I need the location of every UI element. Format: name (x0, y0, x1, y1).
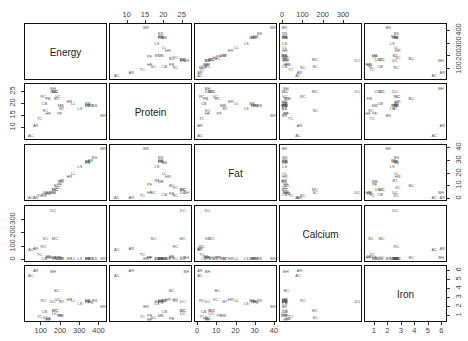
data-point-label: TC (37, 253, 42, 257)
data-point-label: PS (253, 257, 258, 261)
x-tick-label: 3 (395, 326, 407, 335)
y-tick (21, 115, 24, 116)
data-point-label: LL (162, 172, 166, 176)
data-point-label: LS (244, 257, 249, 261)
y-tick (447, 297, 450, 298)
data-point-label: RC (172, 299, 178, 303)
data-point-label: LS (78, 107, 83, 111)
scatter-panel-calcium-vs-fat: BBHRBRBSBCCBCCBHLLLSHSPRPSBTVCFBARACTCHF… (279, 144, 362, 201)
data-point-label: FB (169, 255, 174, 259)
y-tick (447, 147, 450, 148)
data-point-label: PS (253, 104, 258, 108)
data-point-label: UC (52, 257, 58, 261)
data-point-label: BR (143, 147, 149, 151)
y-tick (21, 219, 24, 220)
x-tick (40, 322, 41, 325)
data-point-label: MC (180, 237, 186, 241)
variable-label: Iron (365, 288, 446, 299)
x-tick (282, 20, 283, 23)
data-point-label: VC (173, 56, 179, 60)
data-point-label: PS (88, 257, 93, 261)
data-point-label: BH (438, 59, 444, 63)
data-point-label: TC (37, 315, 42, 319)
x-tick-label: 300 (337, 10, 349, 19)
data-point-label: BR (385, 26, 391, 30)
y-tick (21, 127, 24, 128)
x-tick-label: 10 (121, 10, 133, 19)
x-tick (255, 322, 256, 325)
data-point-label: BC (214, 289, 220, 293)
data-point-label: AC (197, 134, 203, 138)
y-tick (21, 259, 24, 260)
data-point-label: CB (201, 102, 207, 106)
data-point-label: VC (213, 95, 219, 99)
diagonal-panel-calcium: Calcium (279, 205, 362, 262)
data-point-label: SC (312, 109, 318, 113)
scatter-panel-energy-vs-iron: BBHRBRBSBCCBCCBHLLLSHSPRPSBTVCFBARACTCHF… (24, 265, 107, 322)
data-point-label: BH (205, 270, 211, 274)
data-point-label: BC (284, 289, 290, 293)
data-point-label: RC (199, 299, 205, 303)
x-tick (401, 322, 402, 325)
data-point-label: TC (288, 315, 293, 319)
y-tick-label: 400 (454, 21, 463, 37)
y-tick (447, 55, 450, 56)
data-point-label: PF (147, 183, 152, 187)
data-point-label: PS (253, 301, 258, 305)
data-point-label: PS (88, 159, 93, 163)
x-tick (60, 322, 61, 325)
data-point-label: RC (199, 245, 205, 249)
data-point-label: AC (114, 196, 120, 200)
data-point-label: BC (54, 289, 60, 293)
data-point-label: SC (43, 109, 49, 113)
data-point-label: LS (78, 257, 83, 261)
data-point-label: DC (180, 209, 186, 213)
data-point-label: BH (283, 270, 289, 274)
x-tick-label: 0 (276, 10, 288, 19)
data-point-label: HF (283, 63, 288, 67)
data-point-label: AR (440, 71, 446, 75)
data-point-label: DC (354, 191, 360, 195)
data-point-label: MC (312, 309, 318, 313)
scatter-panel-iron-vs-fat: BBHRBRBSBCCBCCBHLLLSHSPRPSBTVCFBARACTCHF… (364, 144, 447, 201)
data-point-label: DC (205, 300, 211, 304)
data-point-label: LL (234, 46, 238, 50)
x-tick (79, 322, 80, 325)
data-point-label: TC (288, 68, 293, 72)
data-point-label: BR (385, 147, 391, 151)
data-point-label: LS (244, 107, 249, 111)
data-point-label: LL (71, 257, 75, 261)
data-point-label: AR (129, 71, 135, 75)
data-point-label: MC (378, 237, 384, 241)
data-point-label: UC (282, 58, 288, 62)
data-point-label: BR (385, 114, 391, 118)
data-point-label: AR (440, 124, 446, 128)
x-tick (145, 20, 146, 23)
data-point-label: SC (151, 65, 157, 69)
y-tick (21, 91, 24, 92)
data-point-label: LL (394, 172, 398, 176)
y-tick (447, 185, 450, 186)
data-point-label: SC (312, 316, 318, 320)
data-point-label: SC (151, 237, 157, 241)
variable-label: Energy (25, 46, 106, 57)
x-tick (387, 322, 388, 325)
data-point-label: BR (100, 114, 106, 118)
data-point-label: PF (147, 256, 152, 260)
y-tick-label: 25 (8, 82, 17, 98)
data-point-label: RC (300, 95, 306, 99)
data-point-label: DC (392, 59, 398, 63)
data-point-label: UC (52, 90, 58, 94)
data-point-label: LL (234, 299, 238, 303)
x-tick (197, 322, 198, 325)
y-tick (447, 270, 450, 271)
x-tick (182, 20, 183, 23)
x-tick-label: 100 (296, 10, 308, 19)
data-point-label: UC (282, 90, 288, 94)
data-point-label: AR (129, 269, 135, 273)
data-point-label: BR (282, 26, 288, 30)
data-point-label: LL (71, 172, 75, 176)
data-point-label: VC (282, 298, 288, 302)
data-point-label: AC (431, 196, 437, 200)
data-point-label: MC (208, 237, 214, 241)
